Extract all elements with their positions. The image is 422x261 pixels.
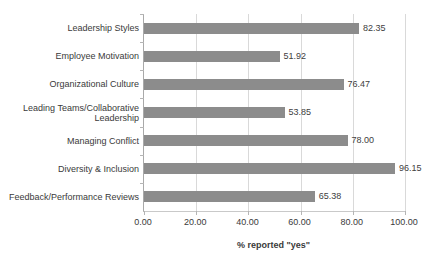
x-axis-tick-label: 100.00 bbox=[390, 217, 418, 227]
x-axis-tick-mark bbox=[405, 211, 406, 215]
y-axis-category-label: Feedback/Performance Reviews bbox=[3, 192, 139, 202]
x-axis-tick-mark bbox=[301, 211, 302, 215]
y-axis-category-labels: Leadership StylesEmployee MotivationOrga… bbox=[0, 0, 139, 261]
plot-area: 82.3551.9276.4753.8578.0096.1565.38 bbox=[143, 14, 405, 212]
bar bbox=[144, 191, 315, 202]
x-axis-tick-label: 40.00 bbox=[236, 217, 259, 227]
y-axis-category-label: Organizational Culture bbox=[3, 79, 139, 89]
x-axis-title: % reported "yes" bbox=[143, 240, 404, 250]
y-axis-category-label: Employee Motivation bbox=[3, 51, 139, 61]
y-axis-category-label-text: Managing Conflict bbox=[3, 136, 139, 146]
x-axis-tick-mark bbox=[248, 211, 249, 215]
x-axis-tick-mark bbox=[144, 211, 145, 215]
bar bbox=[144, 107, 285, 118]
y-axis-tick-mark bbox=[140, 183, 144, 184]
x-axis-tick-label: 20.00 bbox=[184, 217, 207, 227]
bar bbox=[144, 23, 359, 34]
y-axis-tick-mark bbox=[140, 42, 144, 43]
y-axis-tick-mark bbox=[140, 70, 144, 71]
y-axis-category-label-text: Employee Motivation bbox=[3, 51, 139, 61]
y-axis-category-label-text: Diversity & Inclusion bbox=[3, 164, 139, 174]
y-axis-category-label-text: Feedback/Performance Reviews bbox=[3, 192, 139, 202]
x-axis-tick-mark bbox=[196, 211, 197, 215]
bar-value-label: 78.00 bbox=[352, 135, 375, 146]
bar bbox=[144, 79, 344, 90]
y-axis-tick-mark bbox=[140, 127, 144, 128]
x-axis-tick-mark bbox=[353, 211, 354, 215]
y-axis-category-label-text: Leading Teams/Collaborative Leadership bbox=[3, 103, 139, 123]
bar-value-label: 96.15 bbox=[399, 163, 422, 174]
y-axis-category-label-text: Organizational Culture bbox=[3, 79, 139, 89]
y-axis-category-label: Leading Teams/Collaborative Leadership bbox=[3, 103, 139, 123]
x-axis-tick-label: 0.00 bbox=[134, 217, 152, 227]
bar bbox=[144, 163, 395, 174]
x-axis-tick-label: 60.00 bbox=[288, 217, 311, 227]
bar-value-label: 82.35 bbox=[363, 23, 386, 34]
y-axis-category-label: Diversity & Inclusion bbox=[3, 164, 139, 174]
bar-value-label: 65.38 bbox=[319, 191, 342, 202]
y-axis-category-label: Managing Conflict bbox=[3, 136, 139, 146]
x-gridline bbox=[353, 14, 354, 211]
y-axis-tick-mark bbox=[140, 14, 144, 15]
bar-value-label: 53.85 bbox=[289, 107, 312, 118]
y-axis-tick-mark bbox=[140, 98, 144, 99]
x-gridline bbox=[405, 14, 406, 211]
bar-value-label: 76.47 bbox=[348, 79, 371, 90]
bar bbox=[144, 51, 280, 62]
bar-chart: Leadership StylesEmployee MotivationOrga… bbox=[0, 0, 422, 261]
bar-value-label: 51.92 bbox=[284, 51, 307, 62]
bar bbox=[144, 135, 348, 146]
y-axis-category-label: Leadership Styles bbox=[3, 23, 139, 33]
x-axis-tick-label: 80.00 bbox=[341, 217, 364, 227]
y-axis-category-label-text: Leadership Styles bbox=[3, 23, 139, 33]
y-axis-tick-mark bbox=[140, 155, 144, 156]
